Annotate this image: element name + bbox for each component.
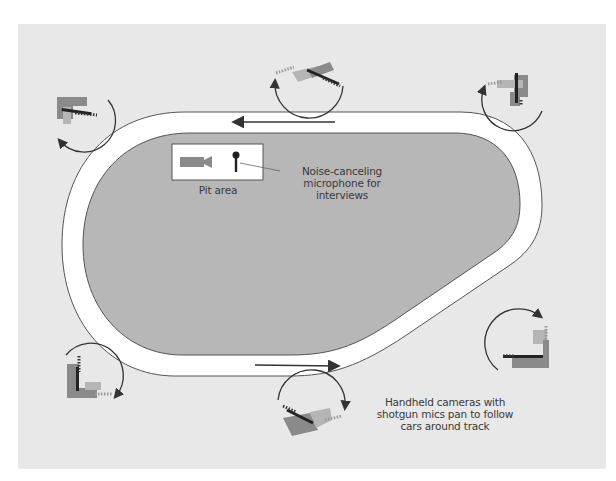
microphone-label: Noise-canceling microphone for interview… <box>282 165 402 201</box>
handheld-camera-icon <box>488 73 528 106</box>
handheld-camera-icon <box>57 97 97 124</box>
track-diagram <box>0 0 616 481</box>
direction-arrow-bottom <box>255 365 336 366</box>
camera-station-top-right <box>482 73 542 131</box>
cameras-label: Handheld cameras with shotgun mics pan t… <box>370 396 520 432</box>
handheld-camera-icon <box>283 406 342 436</box>
handheld-camera-icon <box>67 356 112 398</box>
pit-area-label: Pit area <box>182 184 254 196</box>
camera-station-bottom-right <box>485 309 549 370</box>
camera-station-top-center <box>275 62 343 118</box>
handheld-camera-icon <box>276 62 340 86</box>
handheld-camera-icon <box>503 326 549 368</box>
camera-station-bottom-center <box>278 370 345 436</box>
